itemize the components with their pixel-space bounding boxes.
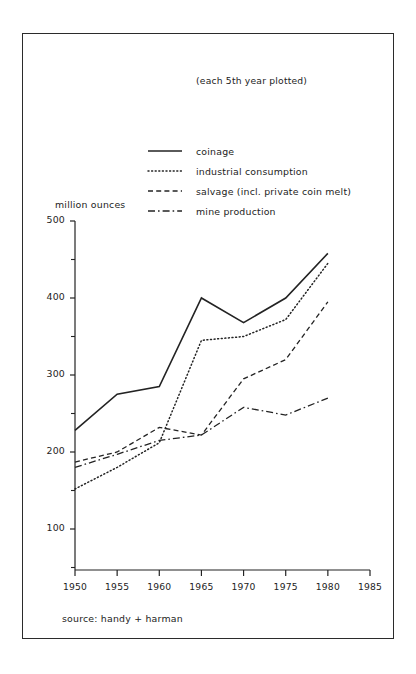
series-line-mine — [75, 398, 328, 467]
legend-swatch-layer — [148, 151, 182, 211]
y-tick-label: 300 — [31, 368, 65, 379]
y-tick-label: 100 — [31, 522, 65, 533]
y-axis-title: million ounces — [55, 199, 125, 210]
legend-label-coinage: coinage — [196, 146, 234, 157]
x-tick-label: 1965 — [179, 581, 223, 592]
x-tick-label: 1950 — [53, 581, 97, 592]
figure-container: (each 5th year plotted) million ounces c… — [0, 0, 416, 674]
chart-canvas — [0, 0, 416, 674]
axis-layer — [70, 221, 370, 576]
y-tick-label: 500 — [31, 214, 65, 225]
source-note: source: handy + harman — [62, 613, 183, 624]
series-layer — [75, 253, 328, 489]
legend-label-salvage: salvage (incl. private coin melt) — [196, 186, 351, 197]
series-line-salvage — [75, 302, 328, 462]
y-tick-label: 200 — [31, 445, 65, 456]
x-tick-label: 1960 — [137, 581, 181, 592]
x-tick-label: 1970 — [222, 581, 266, 592]
legend-label-industrial-consumption: industrial consumption — [196, 166, 308, 177]
chart-subtitle: (each 5th year plotted) — [196, 75, 307, 86]
x-tick-label: 1975 — [264, 581, 308, 592]
y-tick-label: 400 — [31, 291, 65, 302]
x-tick-label: 1980 — [306, 581, 350, 592]
legend-label-mine-production: mine production — [196, 206, 276, 217]
x-tick-label: 1955 — [95, 581, 139, 592]
x-tick-label: 1985 — [348, 581, 392, 592]
